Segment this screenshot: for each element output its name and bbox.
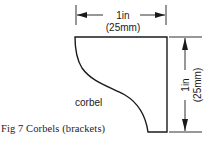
width-metric-label: (25mm) (106, 22, 140, 33)
height-imperial-label: 1in (180, 78, 191, 91)
corbel-label: corbel (75, 97, 102, 108)
height-metric-label: (25mm) (192, 68, 203, 102)
figure-caption: Fig 7 Corbels (brackets) (1, 123, 105, 134)
height-dimension: 1in (25mm) (169, 37, 203, 132)
arrowhead-left-icon (77, 12, 87, 18)
arrowhead-right-icon (155, 12, 165, 18)
corbel-outline (75, 37, 167, 132)
arrowhead-down-icon (182, 119, 188, 131)
width-dimension: 1in (25mm) (76, 5, 166, 33)
arrowhead-up-icon (182, 38, 188, 50)
width-imperial-label: 1in (116, 10, 129, 21)
